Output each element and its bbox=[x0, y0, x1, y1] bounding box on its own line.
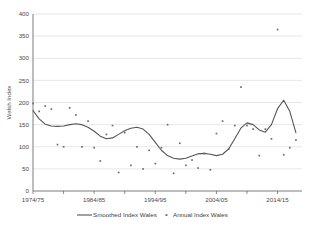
y-axis-tick-label: 350 bbox=[19, 32, 30, 39]
data-point bbox=[240, 86, 242, 88]
data-point bbox=[197, 167, 199, 169]
data-point bbox=[246, 125, 248, 127]
x-axis-tick-label: 1984/85 bbox=[83, 196, 106, 203]
data-point bbox=[63, 146, 65, 148]
data-point bbox=[87, 120, 89, 122]
y-axis-tick-label: 200 bbox=[19, 99, 30, 106]
data-point bbox=[283, 154, 285, 156]
data-point bbox=[191, 159, 193, 161]
data-point bbox=[38, 111, 40, 113]
y-axis-tick-label: 150 bbox=[19, 121, 30, 128]
data-point bbox=[216, 133, 218, 135]
y-axis-tick-label: 250 bbox=[19, 77, 30, 84]
y-axis-tick-label: 100 bbox=[19, 143, 30, 150]
y-axis-tick-label: 300 bbox=[19, 54, 30, 61]
data-point bbox=[203, 153, 205, 155]
data-point bbox=[252, 128, 254, 130]
y-axis-title: Welsh Index bbox=[5, 85, 12, 120]
legend-label-smoothed-index-wales: Smoothed Index Wales bbox=[93, 211, 157, 218]
y-axis-tick-label: 0 bbox=[26, 187, 30, 194]
line-chart: 0501001502002503003504001974/751984/8519… bbox=[0, 0, 316, 233]
data-point bbox=[106, 134, 108, 136]
data-point bbox=[154, 163, 156, 165]
data-point bbox=[173, 173, 175, 175]
data-point bbox=[81, 146, 83, 148]
data-point bbox=[136, 146, 138, 148]
chart-container: 0501001502002503003504001974/751984/8519… bbox=[0, 0, 316, 233]
data-point bbox=[228, 148, 230, 150]
data-point bbox=[130, 165, 132, 167]
data-point bbox=[258, 155, 260, 157]
data-point bbox=[265, 128, 267, 130]
data-point bbox=[57, 144, 59, 146]
data-point bbox=[161, 147, 163, 149]
data-point bbox=[124, 132, 126, 134]
data-point bbox=[210, 169, 212, 171]
data-point bbox=[32, 103, 34, 105]
data-point bbox=[185, 165, 187, 167]
y-axis-tick-label: 50 bbox=[22, 165, 29, 172]
data-point bbox=[118, 172, 120, 174]
data-point bbox=[142, 168, 144, 170]
data-point bbox=[69, 107, 71, 109]
data-point bbox=[222, 120, 224, 122]
data-point bbox=[93, 147, 95, 149]
x-axis-tick-label: 1974/75 bbox=[22, 196, 45, 203]
series-line-smoothed-index-wales bbox=[33, 100, 296, 159]
data-point bbox=[148, 149, 150, 151]
data-point bbox=[75, 114, 77, 116]
legend-label-annual-index-wales: Annual Index Wales bbox=[173, 211, 228, 218]
legend-point-swatch bbox=[166, 214, 168, 216]
data-point bbox=[179, 142, 181, 144]
data-point bbox=[289, 147, 291, 149]
data-point bbox=[277, 29, 279, 31]
chart-legend: Smoothed Index WalesAnnual Index Wales bbox=[77, 211, 228, 218]
y-axis-tick-label: 400 bbox=[19, 10, 30, 17]
x-axis-tick-label: 1994/95 bbox=[144, 196, 167, 203]
data-point bbox=[295, 139, 297, 141]
data-point bbox=[112, 125, 114, 127]
data-point bbox=[44, 105, 46, 107]
data-point bbox=[167, 124, 169, 126]
x-axis-tick-label: 2014/15 bbox=[266, 196, 289, 203]
x-axis-tick-label: 2004/05 bbox=[205, 196, 228, 203]
data-point bbox=[99, 160, 101, 162]
data-point bbox=[51, 108, 53, 110]
data-point bbox=[271, 138, 273, 140]
data-point bbox=[234, 125, 236, 127]
